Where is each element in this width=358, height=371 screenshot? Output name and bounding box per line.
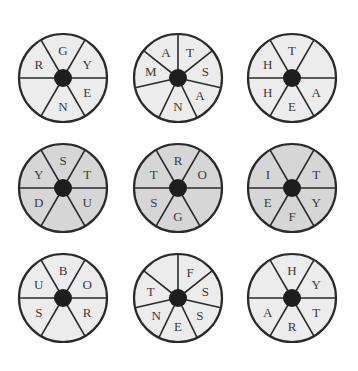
wheel-letter: T	[312, 305, 320, 320]
wheel-letter: H	[263, 57, 272, 72]
wheel-hub	[54, 289, 72, 307]
wheel-letter: N	[151, 308, 161, 323]
wheel-hub	[283, 289, 301, 307]
wheel-7: BORSU	[19, 254, 107, 342]
wheel-5: ROGST	[134, 144, 222, 232]
wheel-letter: S	[202, 284, 209, 299]
wheel-letter: D	[34, 195, 43, 210]
wheel-letter: R	[288, 319, 297, 334]
wheel-letter: R	[174, 153, 183, 168]
wheel-letter: E	[264, 195, 272, 210]
wheel-letter: A	[161, 45, 171, 60]
wheel-4: STUDY	[19, 144, 107, 232]
wheel-letter: U	[83, 195, 93, 210]
wheel-letter: A	[263, 305, 273, 320]
wheel-letter: H	[263, 85, 272, 100]
wheel-letter: M	[145, 64, 157, 79]
wheel-letter: E	[288, 99, 296, 114]
wheel-letter: E	[174, 319, 182, 334]
wheel-letter: R	[34, 57, 43, 72]
wheel-letter: F	[288, 209, 295, 224]
wheel-letter: H	[287, 263, 296, 278]
wheel-1: GYENR	[19, 34, 107, 122]
wheel-letter: U	[34, 277, 44, 292]
wheel-letter: O	[198, 167, 207, 182]
wheel-letter: I	[266, 167, 270, 182]
wheel-hub	[169, 179, 187, 197]
wheel-3: TAEHH	[248, 34, 336, 122]
wheel-letter: G	[58, 43, 67, 58]
wheel-letter: E	[83, 85, 91, 100]
wheel-letter: Y	[34, 167, 44, 182]
wheel-letter: A	[195, 88, 205, 103]
wheel-hub	[283, 69, 301, 87]
wheel-hub	[169, 289, 187, 307]
wheel-letter: T	[312, 167, 320, 182]
wheel-letter: O	[83, 277, 92, 292]
wheel-letter: S	[150, 195, 157, 210]
wheel-letter: T	[147, 284, 155, 299]
wheel-letter: T	[83, 167, 91, 182]
wheel-letter: G	[173, 209, 182, 224]
word-wheel-puzzle: GYENRTSANMATAEHHSTUDYROGSTTYFEIBORSUFSSE…	[0, 0, 358, 371]
wheel-hub	[283, 179, 301, 197]
wheel-letter: Y	[312, 195, 322, 210]
wheel-letter: T	[150, 167, 158, 182]
wheel-letter: S	[196, 308, 203, 323]
wheel-letter: S	[202, 64, 209, 79]
wheel-letter: R	[83, 305, 92, 320]
wheel-letter: S	[35, 305, 42, 320]
wheel-letter: A	[312, 85, 322, 100]
wheel-letter: Y	[83, 57, 93, 72]
wheel-hub	[54, 69, 72, 87]
wheel-letter: T	[288, 43, 296, 58]
wheel-letter: N	[58, 99, 68, 114]
wheel-hub	[54, 179, 72, 197]
wheel-letter: N	[173, 99, 183, 114]
wheel-letter: B	[59, 263, 68, 278]
wheel-letter: T	[186, 45, 194, 60]
wheel-6: TYFEI	[248, 144, 336, 232]
wheel-letter: F	[186, 265, 193, 280]
wheel-letter: Y	[312, 277, 322, 292]
wheel-2: TSANMA	[134, 34, 222, 122]
wheel-8: FSSENT	[134, 254, 222, 342]
wheel-letter: S	[59, 153, 66, 168]
wheel-9: HYTRA	[248, 254, 336, 342]
wheel-hub	[169, 69, 187, 87]
